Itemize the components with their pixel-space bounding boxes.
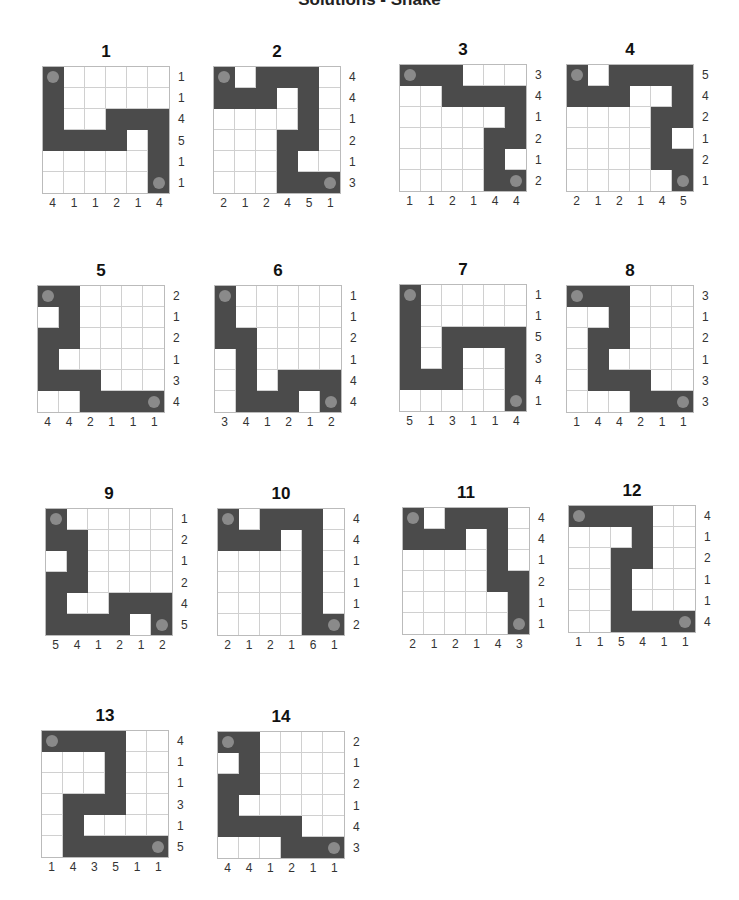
snake-cell	[323, 837, 344, 858]
snake-cell	[609, 328, 630, 349]
row-clue: 1	[702, 306, 722, 327]
snake-cell	[463, 327, 484, 348]
row-clue: 2	[353, 615, 373, 636]
empty-cell	[651, 307, 672, 328]
empty-cell	[320, 286, 341, 307]
snake-cell	[424, 529, 445, 550]
puzzle-grid	[42, 66, 170, 194]
snake-cell	[84, 836, 105, 857]
empty-cell	[463, 149, 484, 170]
puzzle-13: 13411315143511	[41, 706, 216, 900]
column-clue: 5	[105, 860, 126, 874]
empty-cell	[466, 592, 487, 613]
empty-cell	[260, 795, 281, 816]
row-clue: 4	[350, 370, 370, 391]
row-clues: 112144	[350, 285, 370, 413]
snake-cell	[588, 370, 609, 391]
empty-cell	[651, 286, 672, 307]
empty-cell	[505, 285, 526, 306]
empty-cell	[42, 752, 63, 773]
row-clue: 1	[704, 569, 724, 590]
empty-cell	[218, 614, 239, 635]
column-clue: 2	[260, 638, 281, 652]
column-clue: 4	[149, 196, 170, 210]
empty-cell	[569, 548, 590, 569]
empty-cell	[590, 569, 611, 590]
empty-cell	[323, 795, 344, 816]
snake-cell	[505, 390, 526, 411]
empty-cell	[239, 795, 260, 816]
column-clue: 2	[630, 415, 651, 429]
empty-cell	[463, 390, 484, 411]
snake-cell	[63, 794, 84, 815]
empty-cell	[403, 550, 424, 571]
empty-cell	[278, 328, 299, 349]
snake-cell	[508, 592, 529, 613]
snake-cell	[505, 170, 526, 191]
empty-cell	[235, 172, 256, 193]
empty-cell	[260, 551, 281, 572]
empty-cell	[64, 172, 85, 193]
row-clues: 412114	[704, 505, 724, 633]
row-clue: 1	[538, 550, 558, 571]
column-clue: 2	[109, 638, 130, 652]
empty-cell	[214, 130, 235, 151]
snake-cell	[148, 109, 169, 130]
row-clue: 4	[704, 505, 724, 526]
snake-cell	[442, 369, 463, 390]
snake-cell	[59, 328, 80, 349]
empty-cell	[214, 151, 235, 172]
snake-endpoint-icon	[510, 395, 522, 407]
column-clue: 2	[256, 196, 277, 210]
empty-cell	[421, 285, 442, 306]
row-clues: 114511	[178, 66, 198, 194]
empty-cell	[127, 67, 148, 88]
snake-endpoint-icon	[152, 841, 164, 853]
snake-cell	[302, 572, 323, 593]
snake-cell	[43, 88, 64, 109]
snake-cell	[674, 611, 695, 632]
snake-cell	[106, 130, 127, 151]
snake-cell	[632, 527, 653, 548]
puzzle-2: 2441213212451	[213, 42, 388, 242]
snake-cell	[319, 172, 340, 193]
empty-cell	[505, 149, 526, 170]
column-clue: 4	[651, 194, 672, 208]
column-clue: 1	[299, 415, 320, 429]
row-clue: 3	[353, 838, 373, 859]
row-clue: 5	[177, 837, 197, 858]
row-clue: 4	[173, 392, 193, 413]
empty-cell	[588, 128, 609, 149]
row-clues: 212143	[353, 731, 373, 859]
snake-cell	[218, 816, 239, 837]
empty-cell	[281, 795, 302, 816]
empty-cell	[106, 172, 127, 193]
empty-cell	[302, 816, 323, 837]
column-clue: 1	[324, 861, 345, 875]
empty-cell	[323, 816, 344, 837]
row-clue: 4	[538, 528, 558, 549]
empty-cell	[445, 571, 466, 592]
column-clue: 5	[611, 635, 632, 649]
snake-cell	[236, 349, 257, 370]
row-clue: 4	[535, 369, 555, 390]
row-clue: 2	[173, 328, 193, 349]
empty-cell	[106, 88, 127, 109]
puzzle-number: 3	[399, 40, 527, 60]
snake-cell	[218, 732, 239, 753]
empty-cell	[260, 837, 281, 858]
column-clue: 2	[609, 194, 630, 208]
row-clue: 3	[349, 173, 369, 194]
empty-cell	[463, 65, 484, 86]
snake-cell	[46, 614, 67, 635]
puzzle-number: 9	[45, 484, 173, 504]
row-clue: 5	[181, 615, 201, 636]
column-clues: 541212	[45, 638, 173, 652]
empty-cell	[38, 391, 59, 412]
snake-cell	[403, 508, 424, 529]
empty-cell	[463, 369, 484, 390]
row-clue: 4	[350, 392, 370, 413]
puzzle-6: 6112144341212	[214, 261, 389, 461]
snake-endpoint-icon	[513, 618, 525, 630]
empty-cell	[567, 107, 588, 128]
